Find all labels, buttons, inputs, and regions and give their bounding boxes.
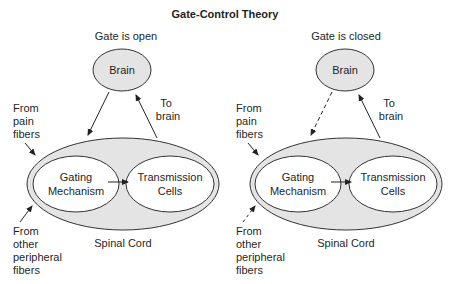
state-label: Gate is open — [95, 30, 157, 42]
diagram-title: Gate-Control Theory — [172, 8, 280, 20]
spinal-cord-label: Spinal Cord — [317, 237, 374, 249]
to-brain-arrow — [359, 95, 380, 138]
transmission-label-line2: Cells — [158, 185, 183, 197]
transmission-label-line1: Transmission — [361, 171, 426, 183]
transmission-cells-node — [349, 156, 437, 212]
peripheral-label-line4: fibers — [13, 264, 40, 276]
gating-label-line2: Mechanism — [270, 185, 326, 197]
peripheral-label-line1: From — [236, 225, 262, 237]
to-brain-arrow — [136, 95, 157, 138]
to-brain-label-line2: brain — [379, 110, 403, 122]
to-brain-label-line1: To — [160, 97, 172, 109]
spinal-cord-label: Spinal Cord — [94, 237, 151, 249]
pain-fibers-label-line2: pain — [236, 115, 257, 127]
gating-label-line1: Gating — [282, 171, 314, 183]
peripheral-label-line3: peripheral — [13, 251, 62, 263]
transmission-cells-node — [126, 156, 214, 212]
pain-fibers-label-line1: From — [236, 102, 262, 114]
peripheral-label-line1: From — [13, 225, 39, 237]
brain-to-cord-arrow-dashed — [311, 92, 332, 135]
to-brain-label-line2: brain — [156, 110, 180, 122]
brain-to-cord-arrow — [88, 92, 109, 135]
pain-fibers-arrow — [25, 143, 35, 155]
pain-fibers-label-line2: pain — [13, 115, 34, 127]
gating-label-line1: Gating — [60, 171, 92, 183]
transmission-label-line2: Cells — [381, 185, 406, 197]
brain-label: Brain — [109, 64, 135, 76]
transmission-label-line1: Transmission — [138, 171, 203, 183]
gating-mechanism-node — [255, 156, 341, 212]
pain-fibers-label-line3: fibers — [13, 128, 40, 140]
pain-fibers-arrow — [248, 143, 258, 155]
peripheral-label-line3: peripheral — [236, 251, 285, 263]
gating-mechanism-node — [33, 156, 119, 212]
peripheral-fibers-arrow-dashed — [243, 206, 255, 222]
to-brain-label-line1: To — [383, 97, 395, 109]
peripheral-fibers-arrow — [20, 206, 32, 222]
gate-control-diagram: Gate-Control Theory Gate is open Brain G… — [0, 0, 450, 284]
panel-gate-open: Gate is open Brain Gating Mechanism Tran… — [13, 30, 219, 276]
panel-gate-closed: Gate is closed Brain Gating Mechanism Tr… — [236, 30, 442, 276]
peripheral-label-line4: fibers — [236, 264, 263, 276]
gating-label-line2: Mechanism — [48, 185, 104, 197]
brain-label: Brain — [332, 64, 358, 76]
pain-fibers-label-line1: From — [13, 102, 39, 114]
state-label: Gate is closed — [311, 30, 381, 42]
peripheral-label-line2: other — [236, 238, 261, 250]
pain-fibers-label-line3: fibers — [236, 128, 263, 140]
peripheral-label-line2: other — [13, 238, 38, 250]
